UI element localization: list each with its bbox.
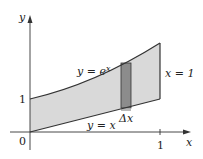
curve-exp-label: y = ex [76, 64, 111, 78]
origin-label: 0 [19, 135, 26, 148]
x-axis-arrow-icon [183, 130, 191, 135]
representative-strip [121, 63, 131, 108]
x-tick-label-1: 1 [157, 139, 164, 152]
area-between-curves-diagram: y x 0 1 1 y = ex y = x x = 1 Δx [0, 0, 203, 159]
y-axis-arrow-icon [28, 15, 33, 23]
x-axis-label: x [186, 136, 193, 149]
y-axis-label: y [18, 11, 26, 24]
boundary-label: x = 1 [165, 67, 194, 80]
strip-width-label: Δx [118, 112, 134, 125]
y-tick-label-1: 1 [19, 93, 26, 106]
line-y-equals-x-label: y = x [86, 119, 116, 132]
